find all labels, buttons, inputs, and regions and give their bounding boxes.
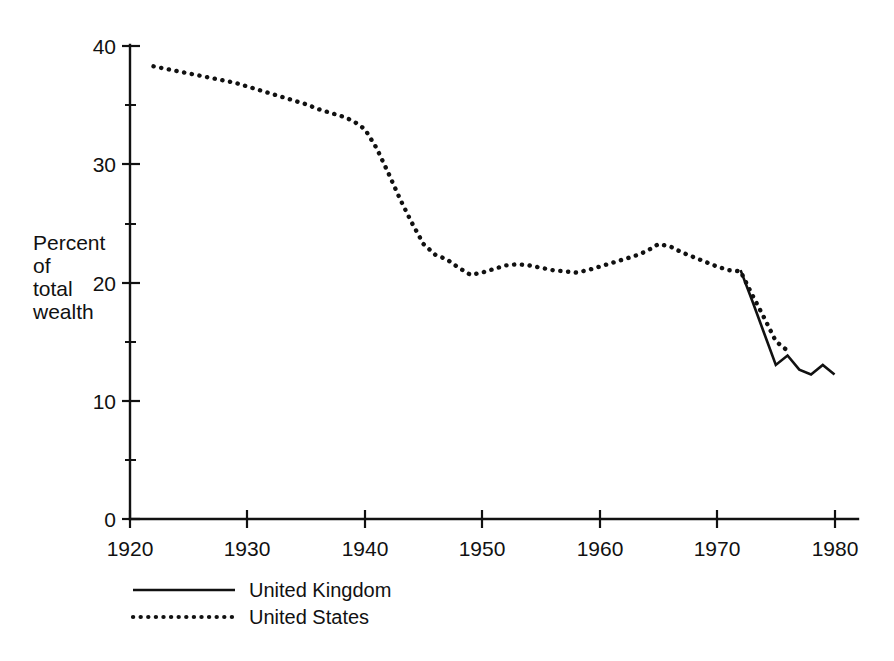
y-tick-label-10: 10 [93, 390, 116, 413]
x-tick-label-1980: 1980 [812, 537, 859, 560]
axes-group [130, 45, 858, 519]
y-axis-title-line-2: of [33, 254, 51, 277]
x-tick-label-1950: 1950 [459, 537, 506, 560]
series-line-united-states [153, 66, 787, 350]
x-tick-label-1920: 1920 [107, 537, 154, 560]
x-tick-label-1940: 1940 [342, 537, 389, 560]
y-tick-label-40: 40 [93, 35, 116, 58]
x-axis-tick-labels: 1920 1930 1940 1950 1960 1970 1980 [107, 537, 859, 560]
line-chart: 40 30 20 10 0 Percent of total wealth 19… [0, 0, 894, 661]
y-tick-label-20: 20 [93, 272, 116, 295]
y-tick-label-0: 0 [104, 508, 116, 531]
y-tick-label-30: 30 [93, 153, 116, 176]
chart-container: 40 30 20 10 0 Percent of total wealth 19… [0, 0, 894, 661]
y-axis-title-line-3: total [33, 277, 73, 300]
x-tick-label-1960: 1960 [577, 537, 624, 560]
y-axis-title-line-4: wealth [32, 300, 94, 323]
series-line-united-kingdom [741, 270, 835, 374]
legend-label-united-states: United States [249, 606, 369, 628]
y-axis-title-line-1: Percent [33, 231, 106, 254]
x-tick-label-1970: 1970 [694, 537, 741, 560]
y-axis-tick-labels: 40 30 20 10 0 [93, 35, 116, 531]
x-tick-label-1930: 1930 [224, 537, 271, 560]
legend: United Kingdom United States [133, 579, 391, 628]
legend-label-united-kingdom: United Kingdom [249, 579, 391, 601]
data-series-group [153, 66, 834, 374]
